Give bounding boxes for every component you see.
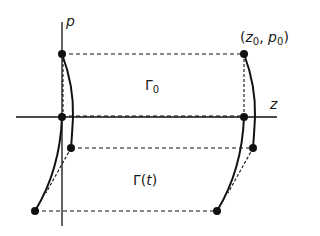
z-axis-label: z xyxy=(270,97,277,111)
point-axis-right xyxy=(240,113,248,121)
z-symbol: z xyxy=(245,29,252,45)
separator: , xyxy=(259,29,268,45)
point-mid-right xyxy=(249,144,257,152)
trajectory-right-upper xyxy=(244,54,255,148)
paren-close: ) xyxy=(152,172,157,188)
trajectory-right-lower xyxy=(217,117,244,211)
gamma-symbol: Γ xyxy=(133,172,141,188)
point-top-left xyxy=(58,50,66,58)
point-bottom-right xyxy=(213,207,221,215)
point-bottom-left xyxy=(31,207,39,215)
gamma-subscript: 0 xyxy=(153,84,159,95)
gammat-label: Γ(t) xyxy=(133,173,157,187)
p-axis-label: p xyxy=(66,14,75,28)
gamma-symbol: Γ xyxy=(145,77,153,93)
point-axis-left xyxy=(58,113,66,121)
trajectory-left-upper xyxy=(62,54,73,148)
gamma0-label: Γ0 xyxy=(145,78,159,95)
point-label-z0-p0: (z0, p0) xyxy=(240,30,289,47)
paren-close: ) xyxy=(283,29,288,45)
gammat-left-diagonal xyxy=(46,148,71,193)
point-mid-left xyxy=(67,144,75,152)
p-symbol: p xyxy=(268,29,277,45)
trajectory-left-lower xyxy=(35,117,62,211)
gammat-right-diagonal xyxy=(228,148,253,193)
point-top-right-z0p0 xyxy=(240,50,248,58)
